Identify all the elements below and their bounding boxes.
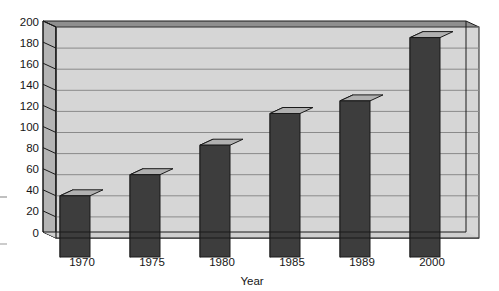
bar-front-face [410,38,440,257]
bar-front-face [270,114,300,258]
y-tick-label: 140 [20,79,39,91]
y-tick-label: 200 [20,16,39,28]
y-tick-label: 180 [20,37,39,49]
chart-canvas: 0 20 40 60 80 100 120 140 160 180 200 19… [0,0,499,291]
x-tick-label: 2000 [419,256,445,268]
x-tick-label: 1989 [349,256,375,268]
y-tick-label: 80 [26,142,39,154]
y-tick-label: 60 [26,163,39,175]
y-tick-label: 0 [33,227,39,239]
scan-artifact-mark [0,243,7,245]
y-tick-label: 120 [20,100,39,112]
y-tick-label: 160 [20,58,39,70]
wall-top-slab [43,21,479,27]
y-tick-label: 20 [26,205,39,217]
x-tick-label: 1975 [139,256,165,268]
scan-artifact-mark [0,196,7,198]
x-tick-label: 1970 [69,256,95,268]
bar-front-face [200,145,230,257]
x-tick-label: 1985 [279,256,305,268]
bar-chart-figure: 0 20 40 60 80 100 120 140 160 180 200 19… [0,0,499,291]
y-tick-label: 40 [26,184,39,196]
bar-front-face [340,101,370,257]
bar-front-face [130,175,160,257]
y-tick-label: 100 [20,121,39,133]
bar-front-face [60,196,90,257]
x-tick-label: 1980 [209,256,235,268]
x-axis-title: Year [240,275,263,287]
